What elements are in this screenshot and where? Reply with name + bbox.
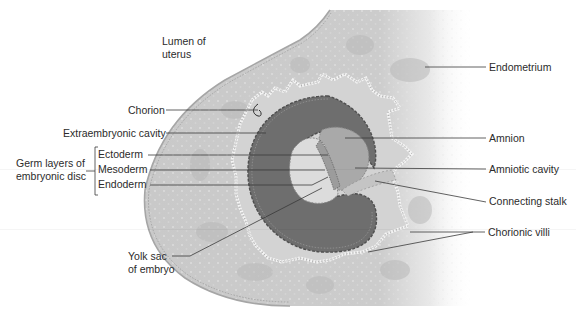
label-yolk-sac: Yolk sac of embryo: [128, 250, 198, 276]
scan-artifact-line: [0, 169, 576, 170]
label-extraembryonic-cavity: Extraembryonic cavity: [63, 127, 166, 140]
diagram-illustration: [0, 0, 576, 311]
scan-artifact-line: [0, 229, 576, 230]
label-lumen-of-uterus: Lumen of uterus: [162, 35, 232, 61]
label-lumen-line1: Lumen of: [162, 35, 232, 48]
label-amnion: Amnion: [489, 132, 525, 145]
embryo-implantation-diagram: Lumen of uterus Endometrium Chorion Extr…: [0, 0, 576, 311]
label-endoderm: Endoderm: [98, 178, 146, 191]
label-yolk-sac-line1: Yolk sac: [128, 250, 198, 263]
label-germ-layers: Germ layers of embryonic disc: [16, 157, 96, 183]
label-lumen-line2: uterus: [162, 48, 232, 61]
label-connecting-stalk: Connecting stalk: [489, 195, 567, 208]
label-yolk-sac-line2: of embryo: [128, 263, 198, 276]
label-endometrium: Endometrium: [489, 61, 551, 74]
label-chorion: Chorion: [128, 104, 165, 117]
label-germ-layers-line2: embryonic disc: [16, 170, 96, 183]
label-chorionic-villi: Chorionic villi: [488, 226, 550, 239]
label-ectoderm: Ectoderm: [98, 148, 143, 161]
